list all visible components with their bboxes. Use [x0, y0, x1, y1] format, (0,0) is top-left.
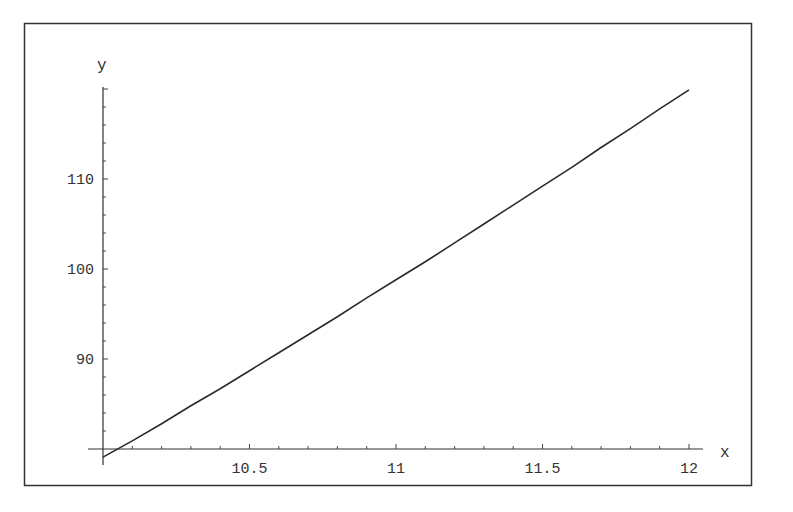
y-tick-label: 110 — [67, 172, 94, 189]
y-axis-label: y — [97, 57, 107, 75]
x-tick-label: 10.5 — [231, 461, 267, 478]
y-tick-label: 100 — [67, 262, 94, 279]
chart: 10.51111.51290100110 x y — [0, 0, 793, 512]
x-tick-label: 12 — [680, 461, 698, 478]
plot-frame — [25, 24, 752, 486]
x-axis-label: x — [720, 444, 730, 462]
y-tick-label: 90 — [76, 352, 94, 369]
x-tick-label: 11.5 — [524, 461, 560, 478]
x-tick-label: 11 — [387, 461, 405, 478]
